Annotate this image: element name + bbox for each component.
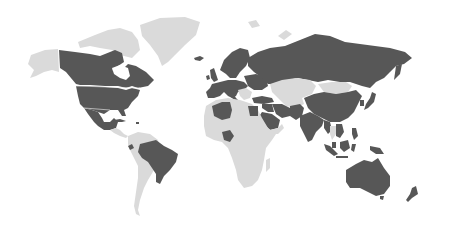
region-madagascar bbox=[266, 158, 270, 172]
region-malaysia bbox=[332, 142, 336, 148]
region-alaska bbox=[28, 49, 59, 78]
region-united-states bbox=[76, 86, 140, 116]
region-cuba bbox=[114, 119, 126, 122]
world-map bbox=[0, 0, 452, 234]
region-new-zealand bbox=[406, 186, 418, 202]
world-map-svg bbox=[0, 0, 452, 234]
region-united-kingdom bbox=[210, 68, 218, 82]
region-iceland bbox=[194, 56, 204, 61]
region-vietnam bbox=[336, 124, 344, 138]
region-south-korea bbox=[360, 100, 364, 106]
region-svalbard bbox=[248, 20, 260, 28]
region-australia bbox=[346, 158, 390, 196]
region-tasmania bbox=[380, 196, 384, 200]
region-philippines bbox=[352, 128, 358, 140]
region-indonesia-borneo bbox=[340, 140, 350, 152]
region-thailand bbox=[330, 126, 336, 140]
region-turkey bbox=[252, 96, 274, 104]
region-balkans bbox=[238, 88, 252, 100]
region-greenland bbox=[140, 17, 200, 66]
region-japan bbox=[364, 92, 376, 110]
region-ireland bbox=[206, 75, 210, 80]
region-papua-new-guinea bbox=[370, 146, 384, 154]
region-novaya-zemlya bbox=[278, 30, 292, 40]
region-indonesia-sulawesi bbox=[351, 144, 356, 152]
region-caribbean bbox=[136, 122, 139, 124]
region-central-america bbox=[110, 128, 128, 138]
region-iraq-syria bbox=[262, 104, 274, 112]
region-scandinavia bbox=[220, 48, 250, 78]
region-canada bbox=[59, 50, 154, 88]
region-indonesia-java bbox=[336, 156, 348, 158]
region-russia bbox=[248, 34, 412, 88]
